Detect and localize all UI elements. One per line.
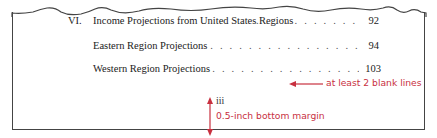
dot-leader: . . . . . . . . . . . . . . . . . . . . …: [256, 15, 360, 26]
toc-entry-number: VI.: [68, 15, 82, 26]
toc-entry-page: 92: [355, 15, 379, 26]
arrow-left-icon: [289, 80, 323, 88]
double-arrow-vertical-icon: [206, 97, 214, 136]
toc-entry-page: 103: [357, 63, 381, 74]
dot-leader: . . . . . . . . . . . . . . . . . . . . …: [193, 63, 359, 74]
annotation-bottom-margin: 0.5-inch bottom margin: [216, 110, 325, 121]
toc-entry-page: 94: [355, 40, 379, 51]
page-numeral: iii: [216, 95, 224, 106]
dot-leader: . . . . . . . . . . . . . . . . . . . . …: [191, 40, 360, 51]
annotation-blank-lines: at least 2 blank lines: [326, 77, 422, 88]
